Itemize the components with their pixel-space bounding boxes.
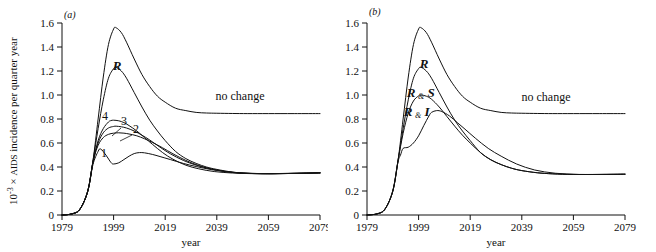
- x-tick-2-b: 2019: [459, 221, 482, 233]
- y-tick-labels-b: 0 0.2 0.4 0.6 0.8 1.0 1.2 1.4 1.6: [345, 17, 359, 221]
- y-tick-5-b: 1.0: [345, 89, 359, 101]
- annotation-RS-amp: &: [418, 92, 425, 101]
- x-tick-4: 2059: [257, 221, 280, 233]
- y-tick-0-b: 0: [354, 209, 360, 221]
- annotation-1-a: 1: [101, 146, 107, 160]
- annotation-3-a: 3: [121, 114, 127, 128]
- curves-group-b: [367, 27, 625, 215]
- y-tick-1: 0.2: [40, 185, 54, 197]
- y-tick-3-b: 0.6: [345, 137, 359, 149]
- x-tick-0: 1979: [51, 221, 74, 233]
- curve-3: [62, 126, 320, 215]
- y-tick-7-b: 1.4: [345, 41, 359, 53]
- leader-line-3: [112, 128, 121, 136]
- curves-group-a: [62, 27, 320, 215]
- y-tick-6: 1.2: [40, 65, 54, 77]
- annotation-RS-R: R: [406, 85, 416, 100]
- panel-b-svg: (b) 0 0.2 0.4 0.6 0.8: [328, 0, 656, 252]
- annotation-RI-amp: &: [415, 111, 422, 120]
- x-tick-3: 2039: [206, 221, 229, 233]
- x-tick-labels-b: 1979 1999 2019 2039 2059 2079: [356, 221, 637, 233]
- y-label-rest: incidence per quarter year: [7, 37, 19, 152]
- x-tick-5-b: 2079: [614, 221, 637, 233]
- x-tick-1-b: 1999: [408, 221, 431, 233]
- y-ticks-a: [57, 23, 62, 215]
- x-tick-3-b: 2039: [511, 221, 534, 233]
- y-tick-5: 1.0: [40, 89, 54, 101]
- y-tick-7: 1.4: [40, 41, 54, 53]
- x-axis-title-a: year: [182, 236, 201, 248]
- annotation-no-change-a: no change: [216, 89, 265, 103]
- x-ticks-a: [62, 215, 320, 220]
- x-ticks-b: [367, 215, 625, 220]
- y-axis-label: 10-3 × AIDS incidence per quarter year: [6, 37, 19, 205]
- annotation-R-a: R: [112, 58, 122, 73]
- figure-root: 10-3 × AIDS incidence per quarter year (…: [0, 0, 656, 252]
- panel-label-b: (b): [369, 6, 381, 18]
- annotation-R-and-S: R & S: [406, 85, 435, 101]
- annotation-RI-R: R: [403, 104, 413, 119]
- annotation-RI-I: I: [423, 104, 430, 119]
- y-tick-6-b: 1.2: [345, 65, 359, 77]
- curve-no-change: [62, 27, 320, 215]
- y-tick-4-b: 0.8: [345, 113, 359, 125]
- panel-a-svg: 10-3 × AIDS incidence per quarter year (…: [0, 0, 328, 252]
- annotation-4-a: 4: [102, 109, 108, 123]
- annotation-no-change-b: no change: [522, 90, 571, 104]
- y-tick-8-b: 1.6: [345, 17, 359, 29]
- y-tick-4: 0.8: [40, 113, 54, 125]
- y-tick-0: 0: [49, 209, 55, 221]
- curve-4: [62, 120, 320, 215]
- y-tick-2: 0.4: [40, 161, 54, 173]
- y-label-base: 10: [7, 194, 19, 206]
- y-tick-3: 0.6: [40, 137, 54, 149]
- x-tick-2: 2019: [154, 221, 177, 233]
- x-tick-4-b: 2059: [562, 221, 585, 233]
- x-tick-1: 1999: [103, 221, 126, 233]
- leader-line-2: [120, 135, 132, 141]
- y-tick-2-b: 0.4: [345, 161, 359, 173]
- x-tick-0-b: 1979: [356, 221, 379, 233]
- panel-a: 10-3 × AIDS incidence per quarter year (…: [0, 0, 328, 252]
- panel-b: (b) 0 0.2 0.4 0.6 0.8: [328, 0, 656, 252]
- panel-label-a: (a): [64, 9, 76, 21]
- y-tick-1-b: 0.2: [345, 185, 359, 197]
- svg-text:10-3 × AIDS incidence per quar: 10-3 × AIDS incidence per quarter year: [6, 37, 19, 205]
- y-label-smallcaps: AIDS: [9, 155, 19, 176]
- annotation-R-b: R: [419, 56, 429, 71]
- y-label-exponent: -3: [6, 187, 15, 194]
- annotation-RS-S: S: [427, 85, 434, 100]
- annotation-2-a: 2: [133, 122, 139, 136]
- annotation-R-and-I: R & I: [403, 104, 431, 120]
- y-ticks-b: [362, 23, 367, 215]
- y-tick-8: 1.6: [40, 17, 54, 29]
- x-tick-labels-a: 1979 1999 2019 2039 2059 2079: [51, 221, 328, 233]
- y-tick-labels-a: 0 0.2 0.4 0.6 0.8 1.0 1.2 1.4 1.6: [40, 17, 54, 221]
- x-tick-5: 2079: [309, 221, 328, 233]
- x-axis-title-b: year: [487, 236, 506, 248]
